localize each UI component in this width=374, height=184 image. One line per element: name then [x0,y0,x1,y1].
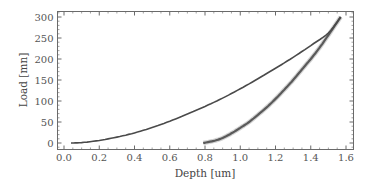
x-tick-label: 0.8 [197,152,213,163]
unloading-curve-halo [203,17,341,143]
y-axis-tick-labels: 050100150200250300 [34,12,53,149]
unloading-curve [203,17,341,143]
y-tick-label: 150 [34,75,53,86]
x-tick-label: 1.6 [338,152,354,163]
minor-ticks [58,12,354,150]
x-tick-label: 0.0 [56,152,72,163]
x-tick-label: 1.2 [268,152,284,163]
x-tick-label: 0.2 [91,152,107,163]
y-tick-label: 0 [47,138,53,149]
y-axis-label: Load [mn] [17,53,29,108]
y-tick-label: 300 [34,12,53,23]
y-tick-label: 50 [41,117,54,128]
y-tick-label: 100 [34,96,53,107]
loading-curve [71,17,341,143]
x-tick-label: 0.4 [127,152,143,163]
x-axis-label: Depth [um] [175,167,236,179]
plot-frame [58,12,354,150]
load-depth-chart: 0.00.20.40.60.81.01.21.41.6 050100150200… [0,0,374,184]
x-axis-tick-labels: 0.00.20.40.60.81.01.21.41.6 [56,152,354,163]
x-tick-label: 1.4 [303,152,319,163]
x-tick-label: 1.0 [232,152,248,163]
x-tick-label: 0.6 [162,152,178,163]
y-tick-label: 200 [34,54,53,65]
plot-curves [71,17,341,143]
y-tick-label: 250 [34,33,53,44]
major-ticks [58,12,354,150]
